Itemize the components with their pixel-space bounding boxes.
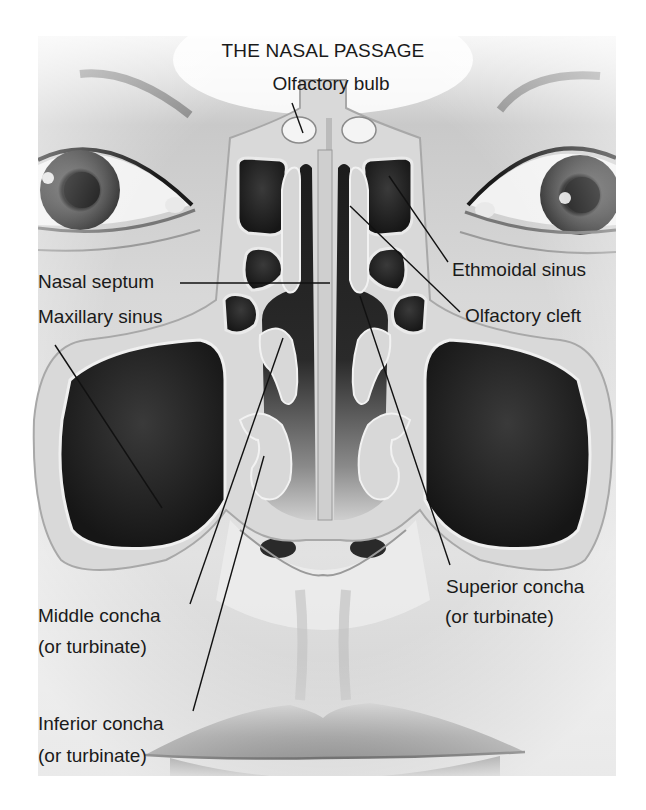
label-middle-concha-sub: (or turbinate)	[38, 636, 147, 657]
label-olfactory-cleft: Olfactory cleft	[465, 305, 582, 326]
left-maxillary-sinus	[60, 340, 225, 549]
nasal-passage-diagram: THE NASAL PASSAGE Olfactory bulb Nasal s…	[0, 0, 646, 810]
label-inferior-concha: Inferior concha	[38, 713, 164, 734]
right-maxillary-sinus	[425, 340, 590, 549]
label-superior-concha: Superior concha	[446, 576, 585, 597]
label-olfactory-bulb: Olfactory bulb	[272, 73, 389, 94]
right-superior-concha	[350, 168, 368, 293]
label-middle-concha: Middle concha	[38, 605, 161, 626]
left-ethmoidal-sinus-upper	[238, 158, 286, 235]
label-superior-concha-sub: (or turbinate)	[445, 606, 554, 627]
right-ethmoidal-sinus-upper	[364, 158, 412, 235]
diagram-title: THE NASAL PASSAGE	[222, 40, 425, 61]
label-ethmoidal-sinus: Ethmoidal sinus	[452, 259, 586, 280]
left-superior-concha	[282, 168, 300, 293]
label-inferior-concha-sub: (or turbinate)	[38, 745, 147, 766]
nasal-septum	[318, 150, 332, 520]
label-maxillary-sinus: Maxillary sinus	[38, 306, 163, 327]
label-nasal-septum: Nasal septum	[38, 271, 154, 292]
